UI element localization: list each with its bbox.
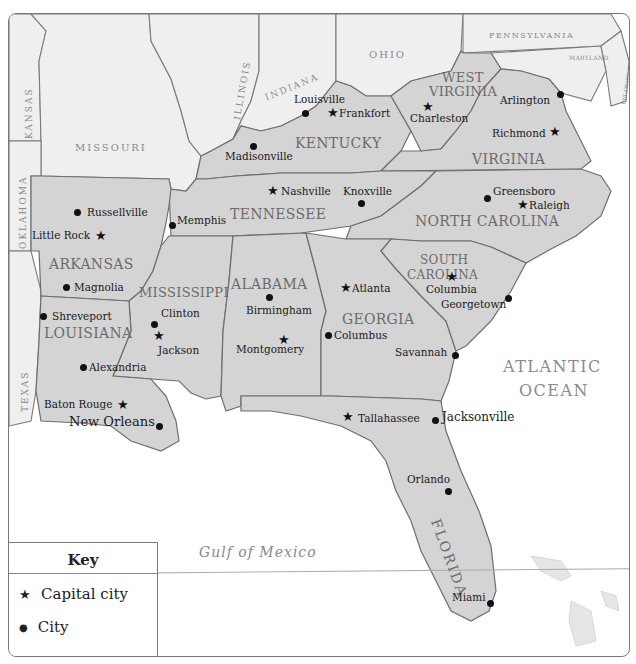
capital-richmond: Richmond [492, 128, 546, 139]
city-magnolia: Magnolia [74, 282, 124, 293]
capital-jackson: Jackson [158, 345, 199, 356]
city-dot-icon [484, 195, 491, 202]
capital-baton-rouge: Baton Rouge [44, 399, 113, 410]
city-dot-icon [80, 364, 87, 371]
key-label-capital: Capital city [41, 585, 128, 603]
city-jacksonville: Jacksonville [442, 411, 514, 423]
island-bahamas-3 [601, 591, 619, 611]
label-south-carolina-1: SOUTH [420, 254, 468, 266]
capital-star-icon: ★ [117, 398, 129, 411]
capital-star-icon: ★ [95, 229, 107, 242]
city-new-orleans: New Orleans [69, 415, 155, 428]
island-bahamas-2 [569, 601, 596, 646]
city-dot-icon [452, 352, 459, 359]
city-orlando: Orlando [407, 474, 450, 485]
city-miami: Miami [452, 592, 486, 603]
label-tennessee: TENNESSEE [230, 207, 326, 221]
city-dot-icon [74, 209, 81, 216]
city-alexandria: Alexandria [89, 362, 146, 373]
city-dot-icon [151, 321, 158, 328]
city-dot-icon [266, 294, 273, 301]
label-texas: TEXAS [21, 371, 30, 412]
capital-charleston: Charleston [410, 113, 468, 124]
city-dot-icon [63, 284, 70, 291]
capital-montgomery: Montgomery [236, 344, 304, 355]
label-atlantic: ATLANTIC [503, 359, 602, 375]
label-maryland: MARYLAND [569, 55, 609, 61]
city-dot-icon [169, 222, 176, 229]
label-west-virginia-2: VIRGINIA [429, 85, 497, 98]
city-dot-icon [250, 143, 257, 150]
label-oklahoma: OKLAHOMA [19, 175, 28, 249]
key-title: Key [9, 551, 157, 569]
capital-columbia: Columbia [426, 284, 477, 295]
dot-icon: ● [19, 622, 28, 633]
label-west-virginia-1: WEST [442, 71, 484, 84]
capital-star-icon: ★ [340, 281, 352, 294]
key-divider [9, 573, 157, 574]
label-gulf-of-mexico: Gulf of Mexico [199, 545, 317, 559]
capital-nashville: Nashville [281, 186, 331, 197]
city-madisonville: Madisonville [225, 151, 293, 162]
capital-frankfort: Frankfort [339, 108, 390, 119]
city-dot-icon [557, 91, 564, 98]
key-item-capital: ★ Capital city [19, 585, 128, 603]
city-dot-icon [487, 600, 494, 607]
label-georgia: GEORGIA [342, 312, 414, 326]
label-louisiana: LOUISIANA [44, 326, 132, 340]
city-arlington: Arlington [500, 95, 550, 106]
key-item-city: ● City [19, 618, 69, 636]
label-north-carolina: NORTH CAROLINA [415, 214, 559, 228]
capital-raleigh: Raleigh [529, 200, 570, 211]
label-ocean: OCEAN [519, 383, 589, 399]
map-frame: KANSAS MISSOURI ILLINOIS INDIANA OHIO PE… [8, 13, 630, 657]
city-clinton: Clinton [161, 308, 200, 319]
city-shreveport: Shreveport [52, 311, 112, 322]
city-dot-icon [432, 417, 439, 424]
city-dot-icon [156, 423, 163, 430]
label-virginia: VIRGINIA [472, 152, 545, 166]
city-dot-icon [325, 332, 332, 339]
city-dot-icon [302, 110, 309, 117]
label-pennsylvania: PENNSYLVANIA [489, 32, 574, 40]
city-savannah: Savannah [395, 347, 447, 358]
label-south-carolina-2: CAROLINA [407, 269, 478, 281]
city-dot-icon [40, 313, 47, 320]
map-key: Key ★ Capital city ● City [8, 542, 158, 657]
label-kentucky: KENTUCKY [295, 136, 382, 150]
state-alabama [221, 233, 326, 411]
label-mississippi: MISSISSIPPI [139, 286, 229, 299]
capital-star-icon: ★ [327, 106, 339, 119]
city-dot-icon [445, 488, 452, 495]
city-memphis: Memphis [177, 215, 226, 226]
label-ohio: OHIO [369, 50, 406, 60]
city-louisville: Louisville [294, 94, 345, 105]
city-dot-icon [358, 200, 365, 207]
city-birmingham: Birmingham [246, 305, 312, 316]
capital-atlanta: Atlanta [352, 283, 390, 294]
capital-star-icon: ★ [517, 198, 529, 211]
city-greensboro: Greensboro [493, 186, 555, 197]
capital-star-icon: ★ [342, 410, 354, 423]
label-arkansas: ARKANSAS [49, 257, 134, 271]
capital-star-icon: ★ [267, 184, 279, 197]
city-russellville: Russellville [87, 207, 148, 218]
city-knoxville: Knoxville [343, 186, 392, 197]
capital-star-icon: ★ [549, 125, 561, 138]
key-label-city: City [38, 618, 69, 636]
label-alabama: ALABAMA [231, 277, 307, 291]
label-missouri: MISSOURI [75, 143, 147, 153]
city-columbus: Columbus [334, 330, 387, 341]
star-icon: ★ [19, 587, 31, 602]
capital-star-icon: ★ [153, 329, 165, 342]
city-georgetown: Georgetown [441, 299, 506, 310]
label-kansas: KANSAS [25, 87, 34, 139]
capital-star-icon: ★ [446, 270, 458, 283]
capital-tallahassee: Tallahassee [358, 413, 420, 424]
capital-little-rock: Little Rock [32, 230, 90, 241]
